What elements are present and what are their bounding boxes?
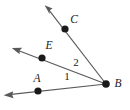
point-c-label: C: [70, 13, 78, 25]
point-c-dot: [61, 25, 68, 32]
geometry-diagram-canvas: A E C B 1 2: [0, 0, 130, 110]
geometry-figure: A E C B 1 2: [0, 0, 130, 110]
ray-ba-arrowhead: [4, 91, 14, 98]
point-b-dot: [102, 80, 110, 88]
ray-ba-line: [9, 84, 106, 95]
point-a-label: A: [32, 72, 41, 84]
point-e-dot: [38, 54, 45, 61]
angle-label-2: 2: [73, 56, 79, 68]
point-b-label: B: [114, 77, 121, 89]
ray-ba-group: A: [4, 72, 106, 98]
point-a-dot: [34, 87, 41, 94]
point-e-label: E: [44, 39, 52, 51]
vertex-b-group: B: [102, 77, 121, 89]
ray-be-group: E: [12, 39, 106, 84]
angle-label-1: 1: [64, 70, 70, 82]
